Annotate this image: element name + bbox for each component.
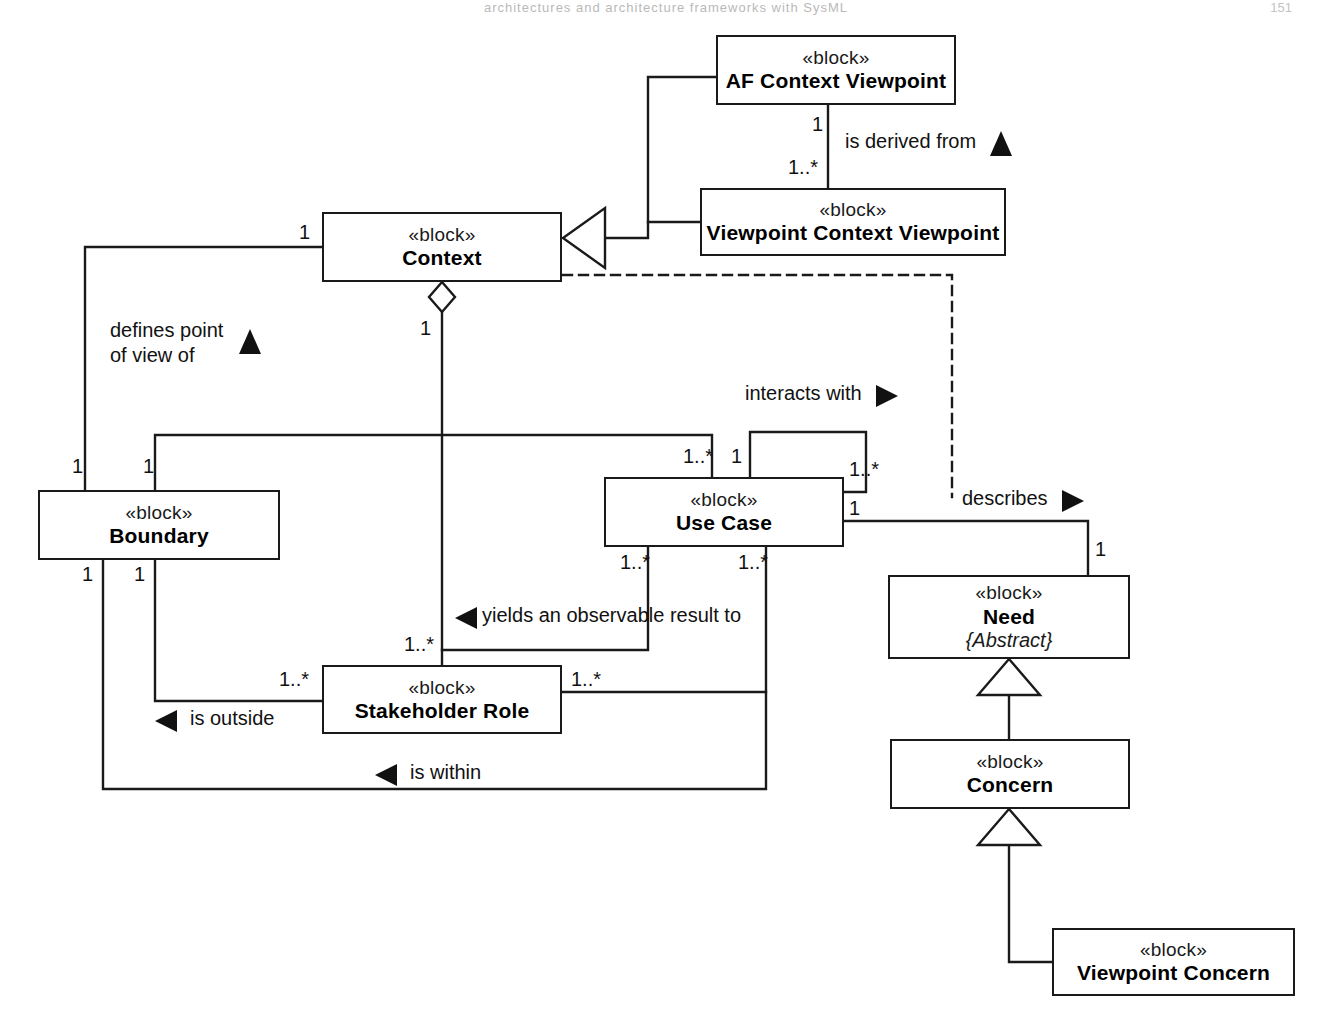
block-stereotype: «block»: [977, 751, 1044, 772]
multiplicity-boundary-top-left: 1: [72, 455, 83, 478]
multiplicity-usecase-top-right: 1: [731, 445, 742, 468]
block-name: Stakeholder Role: [355, 699, 530, 723]
label-is-derived-from: is derived from: [845, 129, 976, 153]
label-defines-point-of-view-of-line1: defines point: [110, 318, 223, 342]
label-yields-an-observable-result-to: yields an observable result to: [482, 603, 741, 627]
edge-usecase-yields-result-to-stakeholder: [442, 547, 648, 650]
block-need[interactable]: «block» Need {Abstract}: [888, 575, 1130, 659]
multiplicity-usecase-bottom-left: 1..*: [620, 551, 650, 574]
composition-diamond-context: [429, 282, 455, 312]
generalization-triangle-need: [978, 659, 1040, 695]
block-context[interactable]: «block» Context: [322, 212, 562, 282]
label-defines-point-of-view-of-line2: of view of: [110, 343, 194, 367]
block-viewpoint-context-viewpoint[interactable]: «block» Viewpoint Context Viewpoint: [700, 188, 1006, 256]
block-af-context-viewpoint[interactable]: «block» AF Context Viewpoint: [716, 35, 956, 105]
arrow-up-icon-defines-point-of-view-of: [239, 329, 261, 354]
block-constraint-abstract: {Abstract}: [966, 629, 1053, 651]
multiplicity-usecase-self-upper: 1..*: [849, 458, 879, 481]
multiplicity-usecase-bottom-right: 1..*: [738, 551, 768, 574]
block-name: Need: [983, 605, 1035, 629]
multiplicity-stakeholder-right: 1..*: [571, 668, 601, 691]
block-name: Boundary: [109, 524, 209, 548]
block-stereotype: «block»: [820, 199, 887, 220]
multiplicity-boundary-bottom-right: 1: [134, 563, 145, 586]
arrow-left-icon-yields-an-observable-result-to: [455, 607, 477, 629]
block-concern[interactable]: «block» Concern: [890, 739, 1130, 809]
arrow-left-icon-is-within: [375, 764, 397, 786]
block-stereotype: «block»: [409, 677, 476, 698]
generalization-triangle-concern: [978, 809, 1040, 845]
multiplicity-need-top: 1: [1095, 538, 1106, 561]
multiplicity-stakeholder-left: 1..*: [279, 668, 309, 691]
page-number: 151: [1270, 0, 1292, 15]
block-name: Viewpoint Context Viewpoint: [707, 221, 1000, 245]
block-stereotype: «block»: [976, 582, 1043, 603]
arrow-right-icon-interacts-with: [876, 385, 898, 407]
multiplicity-usecase-top-left: 1..*: [683, 445, 713, 468]
block-name: AF Context Viewpoint: [726, 69, 947, 93]
label-interacts-with: interacts with: [745, 381, 862, 405]
generalization-triangle-context: [563, 208, 605, 268]
block-stereotype: «block»: [409, 224, 476, 245]
arrow-right-icon-describes: [1062, 490, 1084, 512]
multiplicity-usecase-right: 1: [849, 497, 860, 520]
block-name: Context: [402, 246, 482, 270]
block-name: Use Case: [676, 511, 772, 535]
multiplicity-context-bottom: 1: [420, 317, 431, 340]
block-use-case[interactable]: «block» Use Case: [604, 477, 844, 547]
block-stakeholder-role[interactable]: «block» Stakeholder Role: [322, 665, 562, 734]
edge-concern-viewpoint-concern-line: [1009, 845, 1052, 962]
arrow-up-icon-is-derived-from: [990, 131, 1012, 156]
block-stereotype: «block»: [803, 47, 870, 68]
arrow-left-icon-is-outside: [155, 710, 177, 732]
label-is-outside: is outside: [190, 706, 275, 730]
block-name: Viewpoint Concern: [1077, 961, 1270, 985]
label-is-within: is within: [410, 760, 481, 784]
edge-usecase-to-need: [844, 521, 1088, 575]
page-header-text: architectures and architecture framework…: [0, 0, 1332, 15]
block-viewpoint-concern[interactable]: «block» Viewpoint Concern: [1052, 928, 1295, 996]
multiplicity-boundary-bottom-left: 1: [82, 563, 93, 586]
block-stereotype: «block»: [126, 502, 193, 523]
multiplicity-stakeholder-top: 1..*: [404, 633, 434, 656]
block-stereotype: «block»: [691, 489, 758, 510]
block-stereotype: «block»: [1140, 939, 1207, 960]
edge-defines-point-of-view-of: [85, 247, 322, 490]
multiplicity-boundary-top-right: 1: [143, 455, 154, 478]
block-name: Concern: [967, 773, 1054, 797]
label-describes: describes: [962, 486, 1048, 510]
diagram-canvas: architectures and architecture framework…: [0, 0, 1332, 1029]
multiplicity-af-ctx-vp-bottom: 1: [812, 113, 823, 136]
multiplicity-vp-ctx-vp-top: 1..*: [788, 156, 818, 179]
block-boundary[interactable]: «block» Boundary: [38, 490, 280, 560]
multiplicity-context-left: 1: [299, 221, 310, 244]
